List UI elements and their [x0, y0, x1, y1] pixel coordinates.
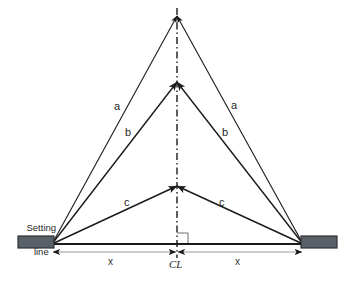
setting-line-label-line2: line [34, 246, 49, 257]
side-label-a-left: a [114, 100, 120, 113]
side-label-c-left: c [124, 196, 130, 209]
triangle-b-right-leg [177, 82, 303, 244]
centerline-label: CL [169, 258, 182, 271]
triangle-a-left-leg [52, 16, 177, 244]
setting-line-label: Setting line [10, 210, 62, 269]
dimension-label-x-right: x [235, 256, 240, 268]
setting-line-label-line1: Setting [26, 222, 56, 233]
triangle-c-left-leg [52, 186, 177, 244]
side-label-b-right: b [222, 126, 228, 139]
triangle-c-right-leg [177, 186, 303, 244]
side-label-a-right: a [231, 99, 237, 112]
right-angle-marker [177, 233, 188, 244]
diagram-canvas: Setting line a a b b c c x x CL [0, 0, 351, 286]
triangle-a-right-leg [177, 16, 303, 244]
dimension-label-x-left: x [108, 256, 113, 268]
setting-line-block-right [301, 236, 337, 248]
side-label-b-left: b [125, 126, 131, 139]
side-label-c-right: c [219, 196, 225, 209]
